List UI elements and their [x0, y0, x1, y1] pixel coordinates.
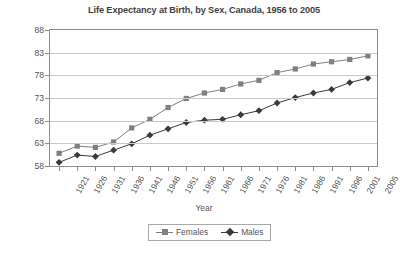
y-tick-label: 88 — [16, 26, 44, 35]
y-tick-mark — [45, 121, 49, 122]
x-tick-label: 1946 — [164, 174, 182, 195]
data-point — [256, 107, 263, 114]
x-tick-label: 1961 — [219, 174, 237, 195]
data-point — [165, 105, 170, 110]
data-point — [311, 61, 316, 66]
data-point — [56, 151, 61, 156]
legend-item-males[interactable]: Males — [221, 227, 263, 237]
data-point — [347, 57, 352, 62]
series-line-females — [59, 56, 368, 153]
x-tick-mark — [332, 167, 333, 171]
chart-title: Life Expectancy at Birth, by Sex, Canada… — [0, 5, 408, 15]
y-gridline — [50, 121, 377, 122]
x-tick-mark — [150, 167, 151, 171]
y-tick-mark — [45, 53, 49, 54]
data-point — [310, 90, 317, 97]
data-point — [75, 143, 80, 148]
x-tick-mark — [132, 167, 133, 171]
y-gridline — [50, 143, 377, 144]
x-tick-label: 1976 — [273, 174, 291, 195]
data-point — [237, 111, 244, 118]
x-tick-mark — [368, 167, 369, 171]
legend-label: Males — [241, 227, 263, 237]
y-tick-label: 63 — [16, 139, 44, 148]
x-tick-label: 1986 — [310, 174, 328, 195]
x-axis-title: Year — [0, 203, 408, 213]
x-tick-label: 1931 — [110, 174, 128, 195]
x-tick-mark — [295, 167, 296, 171]
data-point — [274, 100, 281, 107]
x-tick-mark — [223, 167, 224, 171]
data-point — [293, 66, 298, 71]
legend-label: Females — [176, 227, 208, 237]
data-point — [110, 147, 117, 154]
x-tick-mark — [313, 167, 314, 171]
x-tick-mark — [350, 167, 351, 171]
data-point — [93, 145, 98, 150]
data-point — [328, 86, 335, 93]
x-tick-mark — [241, 167, 242, 171]
y-tick-mark — [45, 98, 49, 99]
x-tick-label: 1936 — [128, 174, 146, 195]
legend-diamond-icon — [221, 228, 238, 237]
data-point — [346, 79, 353, 86]
data-point — [74, 152, 81, 159]
legend-square-icon — [156, 228, 173, 237]
data-point — [220, 87, 225, 92]
x-tick-mark — [204, 167, 205, 171]
y-tick-label: 58 — [16, 162, 44, 171]
x-tick-label: 1966 — [237, 174, 255, 195]
y-tick-label: 73 — [16, 94, 44, 103]
x-tick-mark — [186, 167, 187, 171]
data-point — [238, 81, 243, 86]
x-tick-label: 1981 — [291, 174, 309, 195]
x-tick-mark — [114, 167, 115, 171]
x-tick-label: 1996 — [346, 174, 364, 195]
data-point — [202, 90, 207, 95]
x-tick-mark — [259, 167, 260, 171]
x-tick-label: 1991 — [328, 174, 346, 195]
y-tick-label: 78 — [16, 71, 44, 80]
y-gridline — [50, 98, 377, 99]
y-gridline — [50, 75, 377, 76]
x-tick-label: 1921 — [73, 174, 91, 195]
data-point — [56, 159, 63, 166]
y-tick-mark — [45, 75, 49, 76]
data-point — [329, 59, 334, 64]
chart-legend: FemalesMales — [148, 224, 271, 241]
x-tick-label: 2001 — [364, 174, 382, 195]
x-tick-label: 1926 — [92, 174, 110, 195]
y-tick-mark — [45, 166, 49, 167]
data-point — [365, 53, 370, 58]
data-point — [129, 125, 134, 130]
x-tick-label: 1951 — [182, 174, 200, 195]
data-point — [256, 78, 261, 83]
x-tick-mark — [59, 167, 60, 171]
x-tick-label: 1971 — [255, 174, 273, 195]
y-tick-mark — [45, 30, 49, 31]
plot-area — [49, 29, 378, 167]
x-tick-mark — [168, 167, 169, 171]
data-point — [165, 125, 172, 132]
x-tick-label: 1956 — [201, 174, 219, 195]
legend-item-females[interactable]: Females — [156, 227, 208, 237]
x-tick-mark — [77, 167, 78, 171]
y-tick-mark — [45, 143, 49, 144]
y-tick-label: 68 — [16, 117, 44, 126]
x-tick-mark — [277, 167, 278, 171]
data-point — [92, 153, 99, 160]
y-gridline — [50, 53, 377, 54]
x-tick-mark — [95, 167, 96, 171]
data-point — [147, 132, 154, 139]
x-tick-label: 1941 — [146, 174, 164, 195]
line-chart: Life Expectancy at Birth, by Sex, Canada… — [0, 0, 408, 255]
x-tick-label: 2005 — [382, 174, 400, 195]
y-tick-label: 83 — [16, 49, 44, 58]
